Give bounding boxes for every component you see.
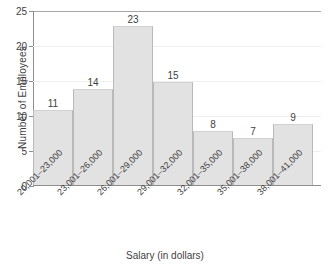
- y-axis-tick-labels: 0 5 10 15 20 25: [0, 0, 33, 270]
- bar-value-label: 8: [194, 119, 232, 132]
- histogram-figure: Number of Employees 0 5 10 15 20 25 11: [0, 0, 330, 270]
- x-axis-title: Salary (in dollars): [0, 250, 330, 261]
- y-tick-label: 20: [16, 41, 27, 52]
- bar-value-label: 9: [274, 112, 312, 125]
- x-axis-tick-labels: 20,001–23,000 23,001–26,000 26,001–29,00…: [33, 188, 321, 246]
- y-tick-label: 15: [16, 76, 27, 87]
- x-axis-line: [33, 185, 321, 186]
- y-tick-label: 5: [21, 146, 27, 157]
- bar-value-label: 7: [234, 126, 272, 139]
- y-tick-label: 25: [16, 6, 27, 17]
- y-tick-label: 10: [16, 111, 27, 122]
- bar-value-label: 23: [114, 14, 152, 27]
- bar-value-label: 15: [154, 70, 192, 83]
- bar-value-label: 14: [74, 77, 112, 90]
- bar-value-label: 11: [34, 98, 72, 111]
